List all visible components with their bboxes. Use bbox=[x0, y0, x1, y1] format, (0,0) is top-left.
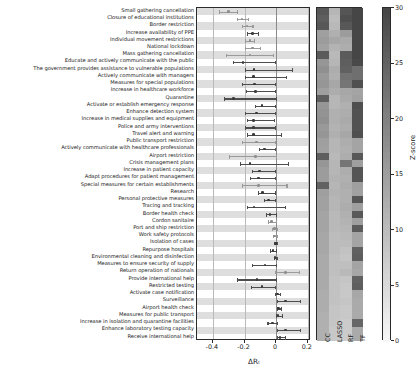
interval-cap bbox=[226, 54, 227, 57]
zero-reference-line bbox=[276, 8, 277, 339]
effect-point-estimate bbox=[252, 75, 255, 78]
effect-point-estimate bbox=[252, 133, 255, 136]
interval-cap bbox=[248, 18, 249, 21]
intervention-label: Mass gathering cancellation bbox=[0, 51, 194, 56]
row-band bbox=[197, 254, 309, 261]
intervention-label: Increase in medical supplies and equipme… bbox=[0, 116, 194, 121]
interval-cap bbox=[286, 76, 287, 79]
intervention-label: Measures for special populations bbox=[0, 80, 194, 85]
interval-cap bbox=[275, 271, 276, 274]
interval-cap bbox=[252, 25, 253, 28]
interval-cap bbox=[247, 206, 248, 209]
interval-cap bbox=[245, 68, 246, 71]
row-band bbox=[197, 196, 309, 203]
effect-point-estimate bbox=[251, 47, 254, 50]
interval-cap bbox=[300, 300, 301, 303]
confidence-interval-bar bbox=[233, 62, 276, 63]
intervention-label: Border health check bbox=[0, 211, 194, 216]
interval-cap bbox=[219, 10, 220, 13]
interval-cap bbox=[229, 155, 230, 158]
interval-cap bbox=[237, 278, 238, 281]
intervention-label: Public transport restriction bbox=[0, 138, 194, 143]
interval-cap bbox=[264, 199, 265, 202]
row-band bbox=[197, 312, 309, 319]
colorbar-tick-label: 20 bbox=[395, 115, 403, 123]
interval-cap bbox=[246, 90, 247, 93]
interval-cap bbox=[282, 314, 283, 317]
interval-cap bbox=[275, 112, 276, 115]
intervention-label: Closure of educational institutions bbox=[0, 15, 194, 20]
x-gridline bbox=[213, 8, 214, 339]
row-band bbox=[197, 211, 309, 218]
intervention-label: The government provides assistance to vu… bbox=[0, 66, 194, 71]
interval-cap bbox=[255, 105, 256, 108]
effect-point-estimate bbox=[269, 213, 272, 216]
interval-cap bbox=[275, 141, 276, 144]
interval-cap bbox=[275, 105, 276, 108]
interval-cap bbox=[275, 286, 276, 289]
colorbar-tick bbox=[391, 7, 394, 8]
interval-cap bbox=[275, 148, 276, 151]
interval-cap bbox=[281, 307, 282, 310]
colorbar-label: Z-score bbox=[409, 135, 417, 160]
interval-cap bbox=[247, 133, 248, 136]
interval-cap bbox=[292, 68, 293, 71]
interval-cap bbox=[277, 228, 278, 231]
intervention-label: Increase in isolation and quarantine fac… bbox=[0, 319, 194, 324]
x-axis-label: ΔRₜ bbox=[194, 357, 314, 366]
interval-cap bbox=[245, 126, 246, 129]
intervention-label: Provide international help bbox=[0, 276, 194, 281]
intervention-label: Police and army interventions bbox=[0, 124, 194, 129]
confidence-interval-bar bbox=[264, 200, 275, 201]
interval-cap bbox=[299, 271, 300, 274]
intervention-label: Research bbox=[0, 189, 194, 194]
interval-cap bbox=[275, 191, 276, 194]
confidence-interval-bar bbox=[251, 287, 276, 288]
effect-point-estimate bbox=[261, 191, 264, 194]
interval-cap bbox=[276, 235, 277, 238]
intervention-label: Isolation of cases bbox=[0, 239, 194, 244]
interval-cap bbox=[275, 177, 276, 180]
interval-cap bbox=[242, 184, 243, 187]
confidence-interval-bar bbox=[246, 91, 275, 92]
colorbar-tick bbox=[391, 118, 394, 119]
intervention-label: Enhance laboratory testing capacity bbox=[0, 326, 194, 331]
confidence-interval-bar bbox=[255, 106, 276, 107]
interval-cap bbox=[276, 249, 277, 252]
interval-cap bbox=[237, 10, 238, 13]
interval-cap bbox=[252, 170, 253, 173]
interval-cap bbox=[260, 47, 261, 50]
interval-cap bbox=[266, 213, 267, 216]
forest-heatmap-figure: Small gathering cancellationClosure of e… bbox=[0, 0, 420, 384]
interval-cap bbox=[288, 162, 289, 165]
effect-point-estimate bbox=[274, 242, 277, 245]
effect-point-estimate bbox=[271, 322, 274, 325]
confidence-interval-bar bbox=[242, 142, 275, 143]
interval-cap bbox=[276, 264, 277, 267]
effect-point-estimate bbox=[267, 199, 270, 202]
x-tick-label: -0.4 bbox=[200, 343, 224, 351]
intervention-label: Port and ship restriction bbox=[0, 225, 194, 230]
interval-cap bbox=[233, 61, 234, 64]
colorbar-tick-label: 10 bbox=[395, 226, 403, 234]
intervention-label: Work safety protocols bbox=[0, 232, 194, 237]
intervention-label: Travel alert and warning bbox=[0, 131, 194, 136]
effect-point-estimate bbox=[257, 184, 260, 187]
heatmap-column-label: TF bbox=[359, 334, 367, 342]
interval-cap bbox=[240, 162, 241, 165]
effect-point-estimate bbox=[232, 97, 235, 100]
interval-cap bbox=[276, 155, 277, 158]
row-band bbox=[197, 240, 309, 247]
intervention-label: Adapt procedures for patient management bbox=[0, 174, 194, 179]
intervention-label: Actively communicate with managers bbox=[0, 73, 194, 78]
intervention-label: Enhance detection system bbox=[0, 109, 194, 114]
intervention-label: Increase in healthcare workforce bbox=[0, 87, 194, 92]
forest-plot-panel bbox=[196, 7, 310, 340]
interval-cap bbox=[277, 322, 278, 325]
interval-cap bbox=[276, 220, 277, 223]
intervention-label: Airport health check bbox=[0, 305, 194, 310]
intervention-label: Actively communicate with healthcare pro… bbox=[0, 145, 194, 150]
interval-cap bbox=[277, 336, 278, 339]
colorbar-tick-label: 15 bbox=[395, 170, 403, 178]
intervention-label: Increase availability of PPE bbox=[0, 30, 194, 35]
